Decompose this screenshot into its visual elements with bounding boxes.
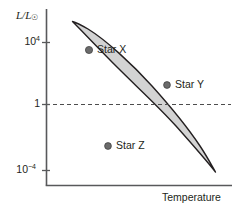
star-x-marker <box>85 46 92 53</box>
y-axis-title-text: L/L <box>16 9 31 21</box>
y-axis-title: L/L☉ <box>16 10 38 22</box>
y-tick-label-1e-4: 10−4 <box>2 164 36 175</box>
star-z-label: Star Z <box>116 140 145 151</box>
star-z-marker <box>105 143 112 150</box>
hr-diagram-figure: L/L☉ 104 1 10−4 Star X Star Y Star Z Tem… <box>0 0 237 213</box>
star-x-label: Star X <box>97 44 126 55</box>
y-tick-label-1-base: 1 <box>34 97 40 109</box>
y-tick-label-1e4-base: 10 <box>24 35 36 47</box>
y-tick-label-1e-4-exponent: −4 <box>28 163 36 170</box>
star-y-label: Star Y <box>175 79 204 90</box>
y-tick-label-1: 1 <box>6 98 40 109</box>
solar-symbol-icon: ☉ <box>31 13 38 22</box>
y-tick-label-1e4-exponent: 4 <box>36 35 40 42</box>
y-tick-label-1e4: 104 <box>6 36 40 47</box>
y-tick-label-1e-4-base: 10 <box>16 163 28 175</box>
x-axis-title: Temperature <box>162 192 221 203</box>
star-y-marker <box>164 82 171 89</box>
